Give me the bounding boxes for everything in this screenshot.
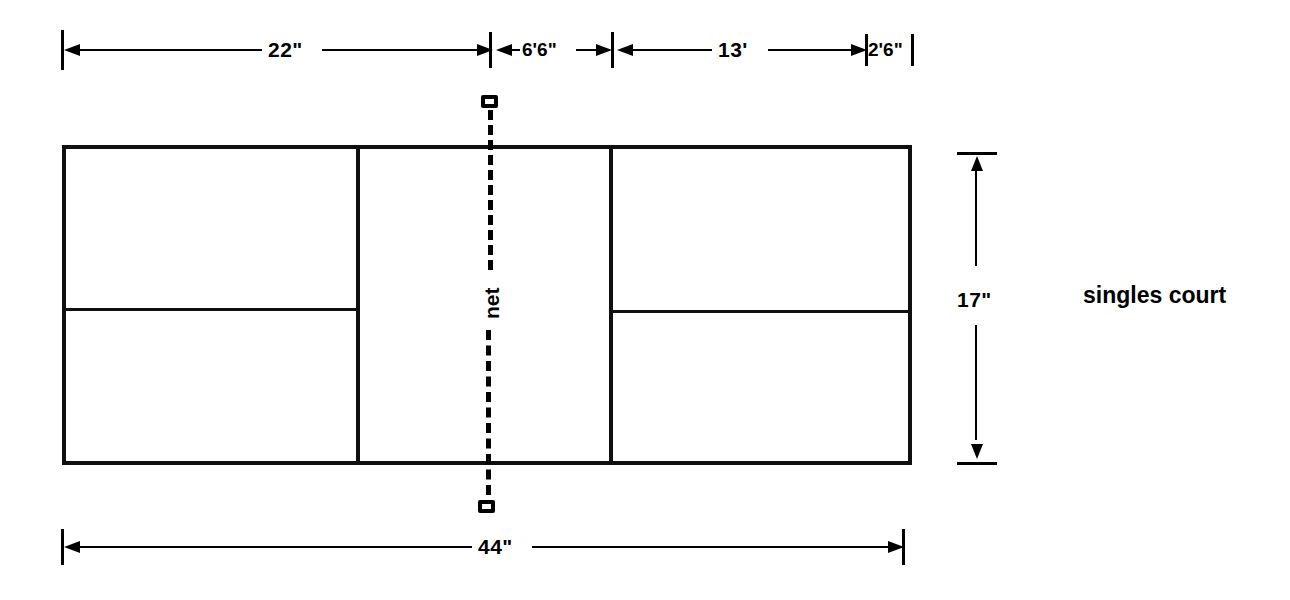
right-dim-arrow-down bbox=[971, 444, 983, 459]
bottom-dim-label-44: 44" bbox=[478, 535, 513, 559]
top-dim-arrow-22-left bbox=[64, 44, 80, 56]
top-dim-tick-right bbox=[911, 34, 914, 66]
bottom-dim-line-right bbox=[532, 546, 890, 548]
top-dim-arrow-66-right bbox=[596, 44, 612, 56]
top-dim-label-26: 2'6" bbox=[868, 39, 903, 61]
bottom-dim-arrow-right bbox=[888, 541, 904, 553]
top-dim-line-66-a bbox=[505, 49, 520, 51]
net-post-top bbox=[481, 95, 498, 108]
court-service-line-right bbox=[609, 149, 613, 465]
right-dim-tick-top bbox=[957, 152, 997, 155]
top-dim-label-66: 6'6" bbox=[522, 39, 557, 61]
court-sideline-left bbox=[62, 145, 66, 465]
right-dim-arrow-up bbox=[971, 156, 983, 171]
bottom-dim-line-left bbox=[72, 546, 472, 548]
top-dim-line-13-b bbox=[768, 49, 856, 51]
top-dim-line-22-b bbox=[322, 49, 477, 51]
top-dim-arrow-13-right bbox=[851, 44, 867, 56]
net-post-bottom bbox=[478, 500, 495, 513]
net-dashed-line-lower bbox=[486, 330, 491, 495]
top-dim-label-13: 13' bbox=[718, 38, 748, 62]
court-baseline-top bbox=[62, 145, 912, 149]
net-label: net bbox=[478, 285, 506, 323]
right-dim-line-upper bbox=[975, 168, 977, 266]
right-dim-label-17: 17" bbox=[957, 288, 992, 312]
top-dim-line-66-b bbox=[576, 49, 598, 51]
court-centre-line-right bbox=[611, 310, 910, 313]
court-service-line-left bbox=[356, 147, 360, 465]
top-dim-line-13-a bbox=[626, 49, 712, 51]
right-dim-line-lower bbox=[975, 325, 977, 440]
right-dim-tick-bottom bbox=[957, 462, 997, 465]
top-dim-label-22: 22" bbox=[268, 38, 303, 62]
top-dim-line-22-a bbox=[72, 49, 262, 51]
top-dim-arrow-22-right bbox=[477, 44, 493, 56]
court-centre-line-left bbox=[62, 308, 358, 311]
net-dashed-line-upper bbox=[488, 110, 493, 270]
diagram-caption: singles court bbox=[1083, 282, 1226, 309]
court-sideline-right bbox=[908, 149, 912, 465]
court-diagram: 22" 6'6" 13' 2'6" net 17" 44" singl bbox=[0, 0, 1290, 600]
